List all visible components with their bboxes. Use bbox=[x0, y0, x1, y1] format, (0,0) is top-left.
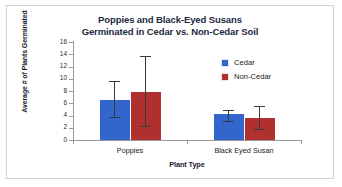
legend-label: Non-Cedar bbox=[234, 72, 271, 81]
y-axis-tick-label: 14 bbox=[60, 50, 67, 57]
x-axis-tick bbox=[187, 140, 188, 144]
chart-title: Poppies and Black-Eyed Susans Germinated… bbox=[7, 14, 333, 37]
error-bar-cap-bottom bbox=[109, 117, 120, 118]
chart-legend: CedarNon-Cedar bbox=[221, 58, 271, 86]
error-bar-non-cedar-black-eyed-susan bbox=[254, 106, 265, 129]
y-axis-tick-label: 16 bbox=[60, 38, 67, 45]
y-axis-tick-label: 6 bbox=[63, 99, 67, 106]
legend-swatch-icon bbox=[221, 59, 229, 67]
error-bar-cap-bottom bbox=[140, 126, 151, 127]
x-axis-category-label: Black Eyed Susan bbox=[187, 146, 301, 155]
y-axis-tick-label: 2 bbox=[63, 123, 67, 130]
legend-item-cedar[interactable]: Cedar bbox=[221, 58, 271, 67]
error-bar-cedar-poppies bbox=[109, 81, 120, 118]
legend-item-non-cedar[interactable]: Non-Cedar bbox=[221, 72, 271, 81]
error-bar-stem bbox=[114, 81, 115, 118]
error-bar-non-cedar-poppies bbox=[140, 56, 151, 127]
error-bar-cap-bottom bbox=[223, 121, 234, 122]
error-bar-cap-bottom bbox=[254, 129, 265, 130]
error-bar-stem bbox=[259, 106, 260, 129]
x-axis-tick bbox=[301, 140, 302, 144]
chart-title-line-2: Germinated in Cedar vs. Non-Cedar Soil bbox=[7, 26, 333, 38]
legend-label: Cedar bbox=[234, 58, 255, 67]
legend-swatch-icon bbox=[221, 73, 229, 81]
y-axis-tick-label: 0 bbox=[63, 136, 67, 143]
error-bar-cedar-black-eyed-susan bbox=[223, 110, 234, 122]
chart-title-line-1: Poppies and Black-Eyed Susans bbox=[7, 14, 333, 26]
y-axis-tick-label: 10 bbox=[60, 74, 67, 81]
x-axis-title: Plant Type bbox=[73, 160, 301, 169]
y-axis-title: Average # of Plants Germinated bbox=[21, 7, 28, 117]
x-axis-category-label: Poppies bbox=[73, 146, 187, 155]
error-bar-stem bbox=[145, 56, 146, 127]
y-axis-tick-label: 4 bbox=[63, 111, 67, 118]
y-axis-tick-label: 12 bbox=[60, 62, 67, 69]
x-axis-tick bbox=[73, 140, 74, 144]
y-axis-tick-label: 8 bbox=[63, 87, 67, 94]
chart-frame: Poppies and Black-Eyed Susans Germinated… bbox=[6, 5, 334, 179]
